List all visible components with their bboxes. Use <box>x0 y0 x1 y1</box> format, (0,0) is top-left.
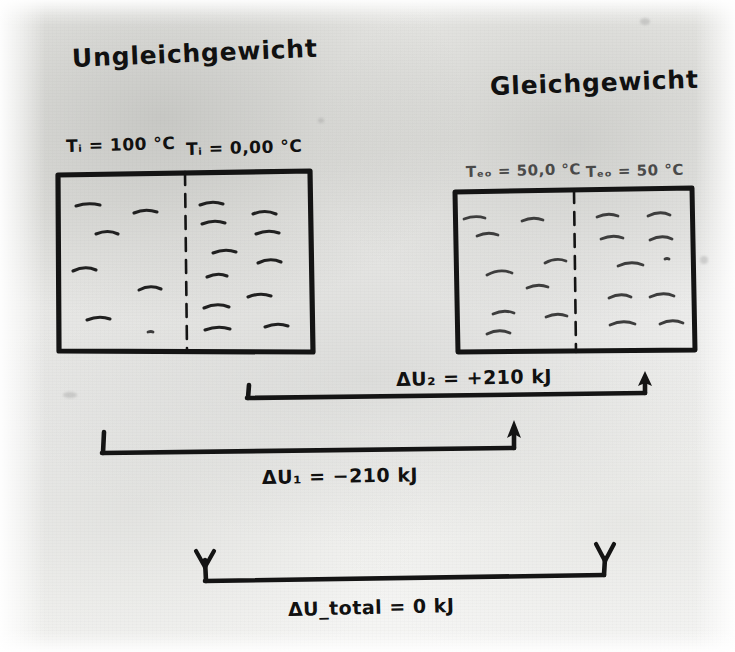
diagram-canvas: Ungleichgewicht Gleichgewicht Tᵢ = 100 °… <box>0 0 735 652</box>
arrow-delta-u-total <box>196 544 614 581</box>
non-equilibrium-box-divider <box>185 172 187 351</box>
arrow-delta-u2 <box>247 371 652 398</box>
arrow-delta-u1 <box>102 420 521 453</box>
particle-group-left-box-hot-half <box>73 204 161 332</box>
equilibrium-box-divider <box>574 190 576 352</box>
particle-group-left-box-cold-half <box>200 202 288 330</box>
particle-group-equilibrium-right-half <box>597 213 683 325</box>
ink-drawing-layer <box>0 0 735 652</box>
particle-group-equilibrium-left-half <box>464 217 567 334</box>
